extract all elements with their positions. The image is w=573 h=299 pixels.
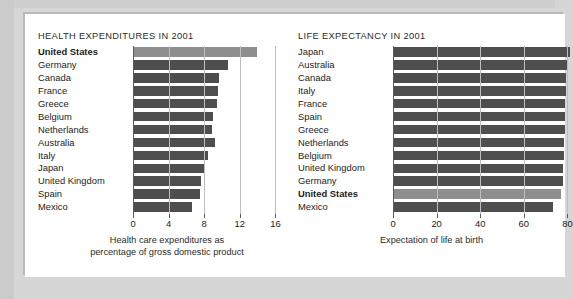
bar: [393, 47, 570, 57]
bar-category-label: Mexico: [38, 201, 68, 214]
bar-category-label: United Kingdom: [298, 162, 365, 175]
page-shade-top: [0, 0, 555, 8]
bar-rows-life-expectancy: JapanAustraliaCanadaItalyFranceSpainGree…: [298, 46, 565, 214]
bar-row: Spain: [38, 188, 296, 201]
x-tick-label: 40: [475, 218, 485, 229]
charts-container: HEALTH EXPENDITURES IN 2001 United State…: [25, 14, 565, 277]
x-tick-label: 12: [235, 218, 245, 229]
bar: [133, 47, 257, 57]
bar-category-label: France: [38, 85, 67, 98]
gridline: [275, 46, 276, 214]
bar-category-label: United States: [298, 188, 358, 201]
bar-category-label: Germany: [298, 175, 337, 188]
bar-row: United Kingdom: [298, 162, 565, 175]
bar: [393, 176, 563, 186]
bar-category-label: United States: [38, 46, 98, 59]
x-tick-label: 80: [562, 218, 572, 229]
bar-row: Mexico: [298, 201, 565, 214]
bar: [393, 138, 564, 148]
bar: [393, 202, 553, 212]
x-axis-caption-life-expectancy: Expectation of life at birth: [298, 235, 565, 247]
bar: [393, 151, 564, 161]
bar-row: Netherlands: [298, 137, 565, 150]
bar: [133, 60, 228, 70]
bar-row: Germany: [38, 59, 296, 72]
bar-row: Greece: [298, 124, 565, 137]
bar-category-label: Spain: [298, 111, 322, 124]
bar-category-label: Italy: [38, 150, 55, 163]
bar: [393, 125, 565, 135]
chart-title-health-expenditures: HEALTH EXPENDITURES IN 2001: [38, 31, 194, 41]
bar-category-label: Australia: [298, 59, 334, 72]
gridline: [524, 46, 525, 214]
x-tick-label: 8: [202, 218, 207, 229]
x-tick-label: 0: [390, 218, 395, 229]
bar-row: Netherlands: [38, 124, 296, 137]
bar-row: United States: [298, 188, 565, 201]
bar-row: Italy: [298, 85, 565, 98]
gridline: [240, 46, 241, 214]
bar: [393, 189, 561, 199]
bar-row: Canada: [298, 72, 565, 85]
bar-row: Belgium: [38, 111, 296, 124]
bar-category-label: Italy: [298, 85, 315, 98]
chart-health-expenditures: HEALTH EXPENDITURES IN 2001 United State…: [38, 14, 296, 277]
bar: [133, 73, 219, 83]
bar-row: Belgium: [298, 150, 565, 163]
gridline: [169, 46, 170, 214]
bar-category-label: Australia: [38, 137, 74, 150]
bar: [133, 138, 215, 148]
bar-row: United States: [38, 46, 296, 59]
bar-row: Mexico: [38, 201, 296, 214]
bar-row: France: [298, 98, 565, 111]
figure-card: HEALTH EXPENDITURES IN 2001 United State…: [25, 14, 565, 277]
bar-category-label: Spain: [38, 188, 62, 201]
axis-caption-line: Health care expenditures as: [38, 235, 296, 247]
bar: [133, 125, 212, 135]
chart-life-expectancy: LIFE EXPECTANCY IN 2001 JapanAustraliaCa…: [298, 14, 565, 277]
plot-area-life-expectancy: JapanAustraliaCanadaItalyFranceSpainGree…: [298, 46, 565, 226]
bar-category-label: Greece: [38, 98, 69, 111]
bar-category-label: Japan: [298, 46, 324, 59]
bar-row: United Kingdom: [38, 175, 296, 188]
bar-row: Spain: [298, 111, 565, 124]
axis-line-zero: [133, 46, 134, 218]
bar-row: France: [38, 85, 296, 98]
gridline: [567, 46, 568, 214]
bar: [393, 164, 563, 174]
bar-category-label: Greece: [298, 124, 329, 137]
bar-category-label: Canada: [38, 72, 71, 85]
x-axis-caption-health-expenditures: Health care expenditures aspercentage of…: [38, 235, 296, 258]
bar-category-label: Belgium: [38, 111, 72, 124]
bar: [133, 151, 208, 161]
bar-row: Australia: [38, 137, 296, 150]
x-axis-life-expectancy: 020406080: [298, 214, 565, 230]
bar: [133, 112, 213, 122]
x-tick-label: 0: [130, 218, 135, 229]
bar-category-label: Japan: [38, 162, 64, 175]
axis-caption-line: percentage of gross domestic product: [38, 247, 296, 259]
x-tick-label: 4: [166, 218, 171, 229]
bar-row: Japan: [38, 162, 296, 175]
bar: [133, 176, 201, 186]
chart-title-life-expectancy: LIFE EXPECTANCY IN 2001: [298, 31, 426, 41]
bar-category-label: France: [298, 98, 327, 111]
bar-row: Canada: [38, 72, 296, 85]
page-shade-left: [0, 0, 14, 299]
bar-row: Australia: [298, 59, 565, 72]
bar-row: Greece: [38, 98, 296, 111]
bar: [133, 189, 200, 199]
bar-row: Germany: [298, 175, 565, 188]
x-tick-label: 20: [431, 218, 441, 229]
bar-category-label: Mexico: [298, 201, 328, 214]
x-axis-health-expenditures: 0481216: [38, 214, 296, 230]
gridline: [437, 46, 438, 214]
bar-rows-health-expenditures: United StatesGermanyCanadaFranceGreeceBe…: [38, 46, 296, 214]
axis-caption-line: Expectation of life at birth: [298, 235, 565, 247]
bar-category-label: Canada: [298, 72, 331, 85]
bar-category-label: Netherlands: [298, 137, 349, 150]
x-tick-label: 60: [519, 218, 529, 229]
bar-row: Japan: [298, 46, 565, 59]
plot-area-health-expenditures: United StatesGermanyCanadaFranceGreeceBe…: [38, 46, 296, 226]
